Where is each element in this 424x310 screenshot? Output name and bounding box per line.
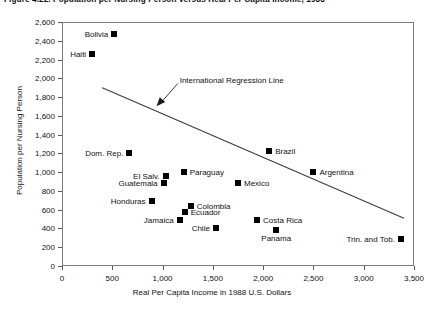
data-point-label: Jamaica (144, 216, 174, 225)
figure-container: Figure 4.22. Population per Nursing Pers… (0, 0, 424, 310)
x-axis-tick-mark (213, 266, 214, 270)
y-axis-tick-mark (58, 116, 62, 117)
data-point-marker (89, 51, 95, 57)
data-point-label: Panama (261, 234, 291, 243)
data-point-label: Brazil (275, 146, 295, 155)
x-axis-tick-mark (263, 266, 264, 270)
y-axis-tick-label: 1,800 (0, 93, 55, 102)
data-point-label: Costa Rica (263, 216, 302, 225)
x-axis-tick-label: 1,000 (153, 274, 173, 283)
data-point-marker (310, 169, 316, 175)
data-point-marker (254, 217, 260, 223)
x-axis-tick-label: 2,000 (253, 274, 273, 283)
y-axis-tick-label: 200 (0, 243, 55, 252)
y-axis-tick-label: 0 (0, 262, 55, 271)
y-axis-tick-label: 1,600 (0, 111, 55, 120)
y-axis-title: Population per Nursing Person (15, 66, 24, 216)
data-point-marker (126, 150, 132, 156)
x-axis-tick-mark (112, 266, 113, 270)
data-point-marker (181, 169, 187, 175)
x-axis-tick-label: 3,000 (354, 274, 374, 283)
data-point-marker (161, 180, 167, 186)
y-axis-tick-mark (58, 210, 62, 211)
data-point-label: Ecuador (191, 207, 221, 216)
x-axis-title: Real Per Capita Income in 1988 U.S. Doll… (0, 288, 424, 297)
y-axis-tick-mark (58, 41, 62, 42)
y-axis-tick-label: 2,000 (0, 74, 55, 83)
x-axis-tick-mark (313, 266, 314, 270)
plot-area (62, 22, 414, 266)
x-axis-tick-mark (163, 266, 164, 270)
data-point-label: Paraguay (190, 168, 224, 177)
y-axis-tick-mark (58, 172, 62, 173)
y-axis-tick-label: 2,400 (0, 36, 55, 45)
y-axis-tick-mark (58, 97, 62, 98)
figure-title: Figure 4.22. Population per Nursing Pers… (4, 0, 325, 4)
y-axis-tick-label: 400 (0, 224, 55, 233)
data-point-label: Trin. and Tob. (346, 234, 394, 243)
y-axis-tick-mark (58, 60, 62, 61)
data-point-marker (266, 148, 272, 154)
data-point-marker (273, 227, 279, 233)
data-point-label: Argentina (319, 168, 353, 177)
data-point-marker (149, 198, 155, 204)
y-axis-tick-mark (58, 191, 62, 192)
data-point-marker (177, 217, 183, 223)
x-axis-tick-mark (414, 266, 415, 270)
data-point-marker (213, 225, 219, 231)
y-axis-tick-mark (58, 135, 62, 136)
data-point-label: Mexico (244, 179, 269, 188)
data-point-label: Chile (192, 224, 210, 233)
data-point-label: Honduras (111, 197, 146, 206)
y-axis-tick-mark (58, 247, 62, 248)
y-axis-tick-label: 800 (0, 186, 55, 195)
data-point-marker (111, 31, 117, 37)
y-axis-tick-mark (58, 228, 62, 229)
regression-line-annotation: International Regression Line (180, 76, 284, 85)
y-axis-tick-label: 2,600 (0, 18, 55, 27)
data-point-label: Bolivia (85, 30, 109, 39)
x-axis-tick-mark (62, 266, 63, 270)
y-axis-tick-mark (58, 153, 62, 154)
x-axis-tick-label: 0 (60, 274, 64, 283)
x-axis-tick-label: 3,500 (404, 274, 424, 283)
data-point-marker (235, 180, 241, 186)
y-axis-tick-label: 1,400 (0, 130, 55, 139)
y-axis-tick-mark (58, 22, 62, 23)
y-axis-tick-label: 1,200 (0, 149, 55, 158)
x-axis-tick-label: 2,500 (303, 274, 323, 283)
data-point-marker (182, 209, 188, 215)
x-axis-tick-label: 500 (106, 274, 119, 283)
y-axis-tick-mark (58, 78, 62, 79)
x-axis-tick-mark (364, 266, 365, 270)
data-point-label: Dom. Rep. (85, 149, 123, 158)
data-point-label: Haiti (70, 49, 86, 58)
data-point-label: Guatemala (118, 179, 157, 188)
x-axis-tick-label: 1,500 (203, 274, 223, 283)
data-point-marker (398, 236, 404, 242)
data-point-marker (163, 173, 169, 179)
y-axis-tick-label: 600 (0, 205, 55, 214)
y-axis-tick-label: 1,000 (0, 168, 55, 177)
y-axis-tick-label: 2,200 (0, 55, 55, 64)
